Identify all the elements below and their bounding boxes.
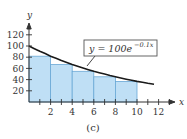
bar-2 [51,65,73,103]
x-tick-10: 10 [131,107,143,117]
y-tick-80: 80 [13,52,25,62]
x-tick-8: 8 [113,107,119,117]
y-tick-40: 40 [13,75,25,85]
y-axis-arrow-icon [27,23,31,29]
x-tick-2: 2 [48,107,54,117]
x-tick-4: 4 [69,107,75,117]
x-tick-6: 6 [91,107,97,117]
formula-annotation: y = 100e −0.1x [84,40,157,66]
formula-exponent: −0.1x [134,41,154,49]
leader-line [87,56,95,66]
y-axis-label: y [26,10,33,20]
x-axis-arrow-icon [169,100,175,104]
bar-4 [94,77,116,102]
y-tick-100: 100 [7,41,24,51]
y-tick-60: 60 [13,64,25,74]
y-tick-20: 20 [13,86,25,96]
bar-3 [72,71,94,102]
y-tick-labels: 20 40 60 80 100 120 [7,30,24,96]
x-tick-12: 12 [153,107,164,117]
bar-5 [115,81,137,102]
x-tick-labels: 2 4 6 8 10 12 [48,107,165,117]
bar-1 [29,56,51,102]
chart: 20 40 60 80 100 120 2 4 6 8 10 12 y x y … [0,0,187,139]
formula-text: y = 100e [88,43,132,54]
x-axis-label: x [179,97,184,107]
figure-caption: (c) [86,122,100,133]
y-tick-120: 120 [7,30,24,40]
riemann-bars [29,56,137,102]
